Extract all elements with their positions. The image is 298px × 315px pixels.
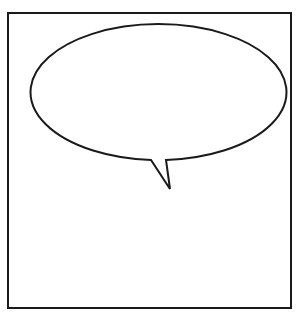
speech-bubble-icon [0,0,298,315]
